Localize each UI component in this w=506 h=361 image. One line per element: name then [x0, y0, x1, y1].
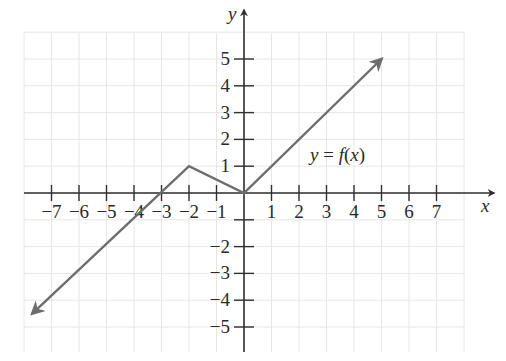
y-tick-label: −2 — [210, 236, 230, 257]
y-tick-label: −3 — [210, 262, 230, 283]
y-axis-label: y — [226, 3, 237, 24]
x-tick-label: 4 — [349, 201, 359, 222]
y-tick-label: 5 — [221, 48, 231, 69]
x-tick-label: −5 — [96, 201, 116, 222]
x-tick-label: 2 — [294, 201, 304, 222]
function-graph: −7−6−5−4−3−2−11234567−5−4−3−212345 x y y… — [0, 0, 506, 361]
x-tick-label: 6 — [404, 201, 414, 222]
x-axis-label: x — [480, 195, 490, 216]
x-tick-label: −7 — [41, 201, 61, 222]
x-tick-label: 5 — [377, 201, 387, 222]
y-tick-label: 4 — [221, 75, 231, 96]
x-tick-label: −1 — [206, 201, 226, 222]
function-label: y = f(x) — [308, 144, 365, 166]
x-tick-label: 3 — [322, 201, 332, 222]
x-tick-label: −6 — [69, 201, 89, 222]
x-tick-label: −3 — [151, 201, 171, 222]
y-tick-label: −4 — [210, 289, 231, 310]
series-layer — [32, 59, 381, 314]
x-tick-label: −2 — [179, 201, 199, 222]
y-tick-label: 2 — [221, 128, 231, 149]
y-tick-label: 3 — [221, 102, 231, 123]
y-tick-label: −5 — [210, 316, 230, 337]
function-curve — [32, 59, 381, 314]
y-tick-label: 1 — [221, 155, 231, 176]
x-tick-label: 1 — [267, 201, 277, 222]
x-tick-label: 7 — [432, 201, 442, 222]
